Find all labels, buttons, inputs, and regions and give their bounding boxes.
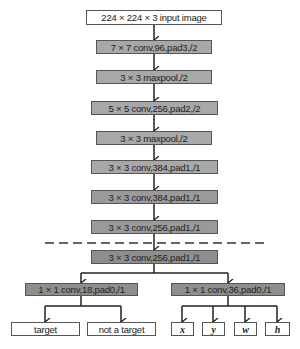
output-y: y [202, 322, 225, 336]
reg-conv-box: 1 × 1 conv,36,pad0,/1 [171, 283, 285, 296]
maxpool1-box: 3 × 3 maxpool,/2 [96, 70, 212, 84]
conv3-box: 3 × 3 conv,384,pad1,/1 [91, 160, 218, 174]
output-w: w [234, 322, 257, 336]
maxpool2-box: 3 × 3 maxpool,/2 [96, 131, 212, 145]
conv2-box: 5 × 5 conv,256,pad2,/2 [91, 101, 218, 115]
conv5-box: 3 × 3 conv,256,pad1,/1 [91, 220, 218, 234]
shared-conv-box: 3 × 3 conv,256,pad1,/1 [91, 250, 218, 264]
cls-conv-box: 1 × 1 conv,18,pad0,/1 [25, 283, 138, 296]
conv1-box: 7 × 7 conv,96,pad3,/2 [96, 40, 212, 54]
output-x: x [171, 322, 194, 336]
output-target: target [11, 322, 80, 336]
output-h: h [265, 322, 290, 336]
input-image-box: 224 × 224 × 3 input image [86, 10, 222, 25]
output-not-a-target: not a target [87, 322, 156, 336]
conv4-box: 3 × 3 conv,384,pad1,/1 [91, 190, 218, 204]
